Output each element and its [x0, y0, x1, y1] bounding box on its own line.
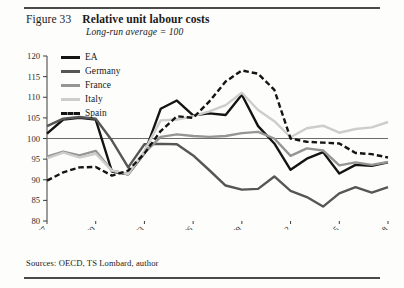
- source-note: Sources: OECD, TS Lombard, author: [26, 258, 159, 268]
- legend-swatch-icon: [61, 98, 80, 101]
- figure-number: Figure 33: [26, 13, 71, 25]
- title-row: Figure 33 Relative unit labour costs: [26, 13, 376, 25]
- y-tick-label: 100: [27, 134, 40, 144]
- y-tick-label: 80: [31, 216, 40, 226]
- legend-label: Italy: [85, 93, 103, 105]
- x-tick-label: 2006: [176, 225, 194, 230]
- y-tick-label: 95: [31, 154, 40, 164]
- legend-swatch-icon: [61, 84, 80, 87]
- figure-root: Figure 33 Relative unit labour costs Lon…: [0, 0, 404, 288]
- legend-label: EA: [85, 51, 98, 63]
- chart-legend: EAGermanyFranceItalySpain: [61, 51, 121, 119]
- top-rule: [24, 7, 380, 9]
- legend-item-italy[interactable]: Italy: [61, 93, 121, 105]
- legend-swatch-icon: [61, 112, 80, 115]
- y-tick-label: 105: [27, 113, 40, 123]
- y-tick-label: 85: [31, 195, 40, 205]
- figure-title: Relative unit labour costs: [82, 13, 209, 25]
- legend-item-spain[interactable]: Spain: [61, 107, 121, 119]
- x-tick-label: 2009: [225, 225, 243, 230]
- legend-label: Germany: [85, 65, 121, 77]
- title-block: Figure 33 Relative unit labour costs Lon…: [26, 13, 376, 37]
- legend-label: Spain: [85, 107, 107, 119]
- legend-item-germany[interactable]: Germany: [61, 65, 121, 77]
- x-tick-label: 2003: [127, 225, 145, 230]
- legend-item-france[interactable]: France: [61, 79, 121, 91]
- x-tick-label: 2000: [79, 225, 97, 230]
- legend-swatch-icon: [61, 56, 80, 59]
- legend-swatch-icon: [61, 70, 80, 73]
- legend-item-ea[interactable]: EA: [61, 51, 121, 63]
- legend-label: France: [85, 79, 111, 91]
- y-tick-label: 90: [31, 175, 40, 185]
- x-tick-label: 2018: [371, 225, 389, 230]
- x-tick-label: 2015: [322, 225, 340, 230]
- y-tick-label: 120: [27, 51, 40, 61]
- x-tick-label: 2012: [273, 225, 291, 230]
- y-tick-label: 115: [27, 72, 40, 82]
- y-tick-label: 110: [27, 92, 40, 102]
- figure-subtitle: Long-run average = 100: [86, 26, 376, 37]
- bottom-rule: [24, 277, 380, 279]
